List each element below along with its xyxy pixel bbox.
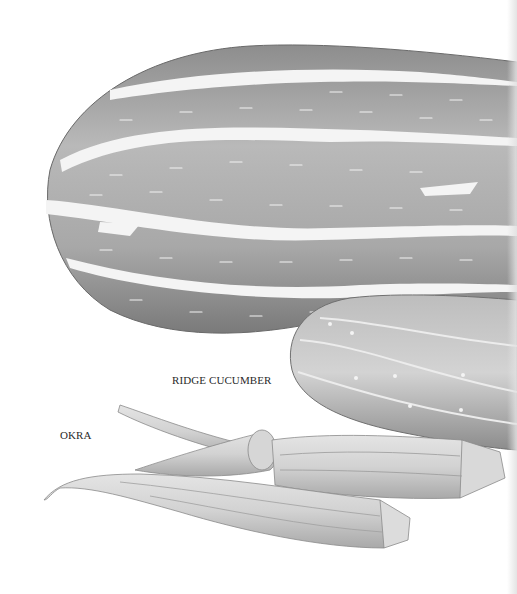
caption-ridge-cucumber: RIDGE CUCUMBER bbox=[172, 374, 272, 386]
botanical-illustration bbox=[0, 0, 517, 594]
page-gutter-shadow bbox=[507, 0, 517, 594]
illustration-page: RIDGE CUCUMBER OKRA bbox=[0, 0, 517, 594]
caption-okra: OKRA bbox=[60, 429, 92, 441]
large-gourd bbox=[46, 45, 517, 333]
small-cucumber bbox=[290, 295, 517, 450]
